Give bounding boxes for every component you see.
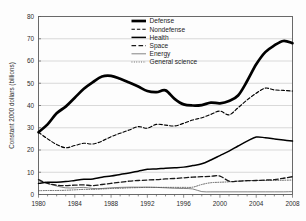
x-tick-label: 1988 [104, 200, 119, 207]
series-line-energy [39, 181, 293, 192]
chart-legend: DefenseNondefenseHealthSpaceEnergyGenera… [132, 17, 198, 65]
y-tick-label: 0 [30, 191, 34, 198]
x-tick-label: 1996 [177, 200, 192, 207]
y-tick-label: 10 [27, 169, 35, 176]
legend-label-general-science: General science [150, 58, 198, 65]
series-line-health [39, 137, 293, 183]
axis-tickmarks [39, 195, 293, 198]
y-tick-label: 60 [27, 57, 35, 64]
line-chart: 01020304050607080 1980198419881992199620… [0, 0, 306, 221]
legend-label-defense: Defense [150, 17, 175, 24]
legend-label-nondefense: Nondefense [150, 26, 186, 33]
legend-label-space: Space [150, 42, 169, 50]
x-tick-label: 2008 [285, 200, 300, 207]
x-tick-label: 2004 [249, 200, 264, 207]
y-tick-label: 70 [27, 35, 35, 42]
y-tick-label: 80 [27, 13, 35, 20]
legend-label-health: Health [150, 34, 169, 41]
x-tick-label: 2000 [213, 200, 228, 207]
chart-figure: 01020304050607080 1980198419881992199620… [0, 0, 306, 221]
y-tick-label: 20 [27, 146, 35, 153]
legend-label-energy: Energy [150, 50, 172, 58]
y-tick-label: 30 [27, 124, 35, 131]
y-axis-title: Constant 2000 dollars (billions) [8, 62, 16, 148]
y-tick-label: 50 [27, 80, 35, 87]
x-tick-label: 1980 [31, 200, 46, 207]
x-tick-label: 1984 [68, 200, 83, 207]
y-axis-tick-labels: 01020304050607080 [27, 13, 35, 198]
x-tick-label: 1992 [140, 200, 155, 207]
x-axis-tick-labels: 19801984198819921996200020042008 [31, 200, 300, 207]
y-tick-label: 40 [27, 102, 35, 109]
